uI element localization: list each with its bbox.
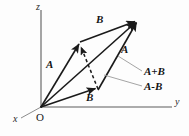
vector-b-bottom-label: B: [86, 92, 93, 103]
origin-label: O: [36, 112, 44, 123]
vector-a-left-label: A: [46, 59, 53, 70]
vector-b-top-label: B: [96, 14, 103, 25]
vector-a-right-label: A: [121, 44, 128, 55]
leader-line-a-plus-b: [118, 56, 142, 71]
difference-callout-label: A-B: [144, 81, 162, 92]
vector-a-left-arrow: [41, 44, 79, 107]
x-axis-label: x: [13, 114, 17, 124]
sum-callout-label: A+B: [144, 66, 165, 77]
leader-line-a-minus-b: [104, 75, 142, 86]
origin-point: [40, 106, 42, 108]
y-axis-label: y: [175, 97, 179, 107]
z-axis-label: z: [36, 2, 40, 12]
vector-diagram-figure: z y x O A B A B A+B A-B: [0, 0, 189, 136]
